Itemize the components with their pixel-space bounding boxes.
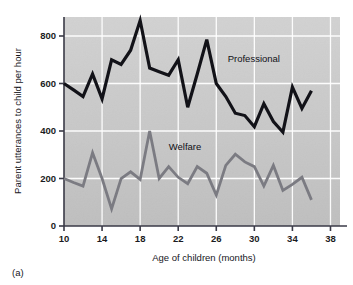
x-tick-label: 38 bbox=[325, 233, 336, 244]
y-tick-label: 0 bbox=[51, 220, 56, 231]
x-tick-label: 10 bbox=[59, 233, 70, 244]
y-axis-title: Parent utterances to child per hour bbox=[12, 48, 23, 194]
x-tick-label: 34 bbox=[287, 233, 298, 244]
x-tick-label: 26 bbox=[211, 233, 222, 244]
plot-area-texture bbox=[64, 17, 340, 226]
figure-panel-a: 0200400600800 1014182226303438 Professio… bbox=[0, 0, 353, 285]
x-axis-ticks: 1014182226303438 bbox=[59, 226, 336, 244]
series-label-welfare: Welfare bbox=[169, 141, 202, 152]
x-tick-label: 14 bbox=[97, 233, 108, 244]
x-tick-label: 22 bbox=[173, 233, 184, 244]
y-tick-label: 800 bbox=[40, 30, 56, 41]
x-tick-label: 30 bbox=[249, 233, 260, 244]
y-tick-label: 200 bbox=[40, 173, 56, 184]
x-tick-label: 18 bbox=[135, 233, 146, 244]
line-chart: 0200400600800 1014182226303438 Professio… bbox=[0, 0, 353, 285]
y-axis-ticks: 0200400600800 bbox=[40, 30, 64, 231]
x-axis-title: Age of children (months) bbox=[152, 252, 256, 263]
y-tick-label: 400 bbox=[40, 125, 56, 136]
y-tick-label: 600 bbox=[40, 78, 56, 89]
series-label-professional: Professional bbox=[228, 53, 280, 64]
panel-label: (a) bbox=[12, 267, 24, 278]
